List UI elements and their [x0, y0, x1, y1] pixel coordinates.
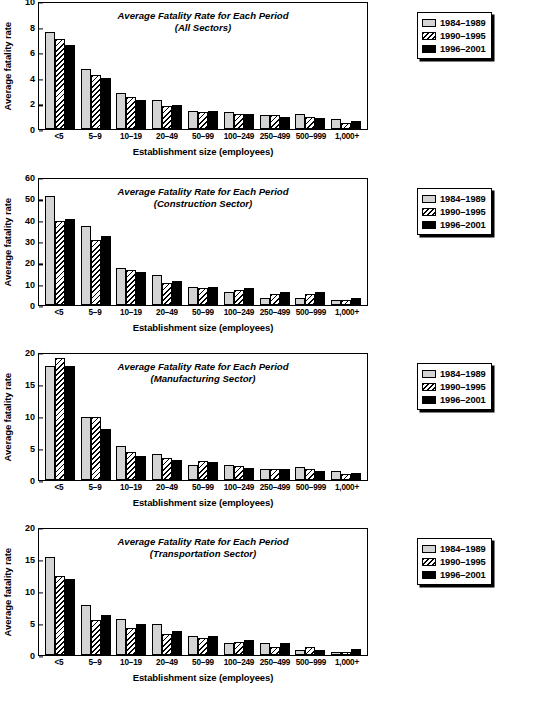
bar: [45, 32, 55, 129]
bar: [208, 636, 218, 655]
bar: [81, 69, 91, 129]
bar: [208, 287, 218, 305]
bar-group: [221, 529, 257, 655]
y-tick-label: 0: [30, 126, 35, 135]
x-tick-label: 5–9: [77, 658, 113, 667]
bar-groups: [39, 179, 367, 305]
light-gray-swatch: [422, 370, 436, 378]
y-tick-label: 0: [30, 302, 35, 311]
legend-item: 1984–1989: [422, 192, 486, 205]
x-tick-label: 50–99: [185, 483, 221, 492]
bar: [260, 469, 270, 480]
y-tick-label: 5: [30, 445, 35, 454]
y-tick-label: 2: [30, 100, 35, 109]
x-tick-label: 500–999: [293, 308, 329, 317]
x-tick-label: 10–19: [113, 483, 149, 492]
bar: [126, 452, 136, 480]
bar-group: [257, 529, 293, 655]
x-tick-label: 100–249: [221, 132, 257, 141]
y-tick-label: 15: [25, 381, 35, 390]
bar: [244, 288, 254, 305]
bar: [198, 288, 208, 305]
y-axis-title: Average fatality rate: [0, 2, 16, 130]
bar-group: [149, 179, 185, 305]
x-tick-label: 20–49: [149, 132, 185, 141]
bar-group: [328, 3, 364, 129]
bar-group: [149, 3, 185, 129]
y-axis-title-text: Average fatality rate: [3, 22, 13, 110]
x-axis-title: Establishment size (employees): [38, 497, 368, 508]
bar-group: [328, 179, 364, 305]
legend-label: 1990–1995: [440, 207, 486, 217]
bar: [126, 97, 136, 129]
bar-group: [78, 3, 114, 129]
legend-label: 1990–1995: [440, 557, 486, 567]
bar: [341, 474, 351, 480]
y-tick-label: 10: [25, 280, 35, 289]
x-tick-label: 250–499: [257, 483, 293, 492]
x-tick-label: 1,000+: [329, 483, 365, 492]
bar: [65, 45, 75, 129]
bar: [81, 605, 91, 655]
y-tick-label: 6: [30, 49, 35, 58]
bar-group: [149, 354, 185, 480]
bar: [65, 366, 75, 480]
x-axis-ticks: <55–910–1920–4950–99100–249250–499500–99…: [38, 306, 368, 321]
hatched-swatch: [422, 558, 436, 566]
x-tick-label: <5: [41, 483, 77, 492]
bar-group: [42, 3, 78, 129]
bar: [224, 643, 234, 655]
bar: [234, 642, 244, 655]
bar: [152, 100, 162, 129]
bar: [65, 219, 75, 305]
bar: [305, 117, 315, 129]
chart-panel-all-sectors: Average fatality rate0246810Average Fata…: [0, 2, 533, 157]
bar: [91, 620, 101, 655]
legend-label: 1984–1989: [440, 18, 486, 28]
bar: [91, 75, 101, 129]
bar: [331, 652, 341, 655]
bar: [172, 105, 182, 129]
bar: [208, 462, 218, 480]
black-swatch: [422, 221, 436, 229]
hatched-swatch: [422, 32, 436, 40]
bar: [244, 640, 254, 655]
bar: [315, 650, 325, 655]
bar: [45, 196, 55, 305]
y-axis-title: Average fatality rate: [0, 353, 16, 481]
x-axis-ticks: <55–910–1920–4950–99100–249250–499500–99…: [38, 130, 368, 145]
bar-group: [114, 354, 150, 480]
y-tick-label: 10: [25, 588, 35, 597]
x-tick-label: 1,000+: [329, 658, 365, 667]
bar: [315, 292, 325, 305]
bar: [126, 270, 136, 305]
y-axis-ticks: 05101520: [16, 528, 38, 656]
x-axis-title: Establishment size (employees): [38, 146, 368, 157]
bar: [280, 469, 290, 480]
bar: [55, 221, 65, 305]
bar-group: [292, 529, 328, 655]
bar: [188, 111, 198, 129]
bar-group: [257, 3, 293, 129]
y-tick-label: 0: [30, 652, 35, 661]
bar: [351, 121, 361, 129]
x-tick-label: 250–499: [257, 308, 293, 317]
bar-group: [292, 3, 328, 129]
bar-group: [221, 3, 257, 129]
light-gray-swatch: [422, 545, 436, 553]
bar: [45, 557, 55, 655]
bar: [162, 283, 172, 305]
bar: [331, 119, 341, 129]
bar: [188, 636, 198, 655]
bar: [162, 106, 172, 129]
x-tick-label: 250–499: [257, 132, 293, 141]
bar: [81, 417, 91, 480]
legend-transportation-sector: 1984–19891990–19951996–2001: [417, 538, 492, 585]
bar: [295, 298, 305, 305]
legend-label: 1996–2001: [440, 220, 486, 230]
bar: [208, 111, 218, 129]
bar: [136, 624, 146, 655]
bar: [280, 292, 290, 305]
y-tick-label: 30: [25, 238, 35, 247]
chart-panel-construction-sector: Average fatality rate0102030405060Averag…: [0, 178, 533, 333]
